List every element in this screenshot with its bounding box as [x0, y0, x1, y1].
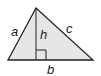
triangle [8, 8, 93, 60]
label-side-a: a [11, 24, 18, 39]
label-height-h: h [40, 27, 47, 42]
label-side-c: c [66, 21, 73, 36]
label-base-b: b [47, 62, 54, 76]
triangle-diagram: a h c b [0, 0, 101, 76]
